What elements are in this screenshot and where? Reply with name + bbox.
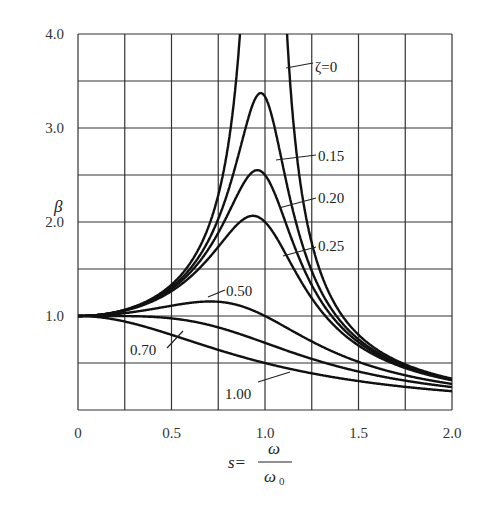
y-tick-label: 2.0	[45, 214, 64, 230]
x-axis-title-denominator: ω	[264, 467, 276, 486]
curve-label: 0.70	[130, 342, 156, 358]
curve-label: 1.00	[225, 386, 251, 402]
leader-line	[283, 247, 316, 256]
x-axis-title-numerator: ω	[268, 439, 280, 458]
y-tick-label: 3.0	[45, 120, 64, 136]
y-axis-title: β	[53, 197, 63, 216]
y-tick-label: 4.0	[45, 26, 64, 42]
leader-line	[258, 372, 290, 382]
x-axis-title: s= ω ω 0	[228, 439, 292, 487]
curve-label: 0.15	[318, 148, 344, 164]
y-tick-label: 1.0	[45, 308, 64, 324]
curve-label: ζ=0	[315, 59, 337, 75]
leader-line	[208, 290, 225, 297]
x-tick-label: 2.0	[443, 425, 462, 441]
leader-line	[279, 198, 316, 208]
x-tick-label: 0	[74, 425, 82, 441]
curve-label: 0.25	[318, 238, 344, 254]
x-tick-label: 0.5	[162, 425, 181, 441]
curve-label: 0.50	[226, 283, 252, 299]
chart-canvas: ζ=00.150.200.250.500.701.00 00.51.01.52.…	[0, 0, 483, 511]
x-axis-title-lhs: s=	[228, 453, 246, 472]
x-axis-title-subscript: 0	[279, 475, 285, 487]
x-tick-label: 1.5	[349, 425, 368, 441]
y-tick-labels: 1.02.03.04.0	[45, 26, 64, 324]
curve-zeta-0	[285, 0, 452, 379]
curve-label: 0.20	[318, 190, 344, 206]
